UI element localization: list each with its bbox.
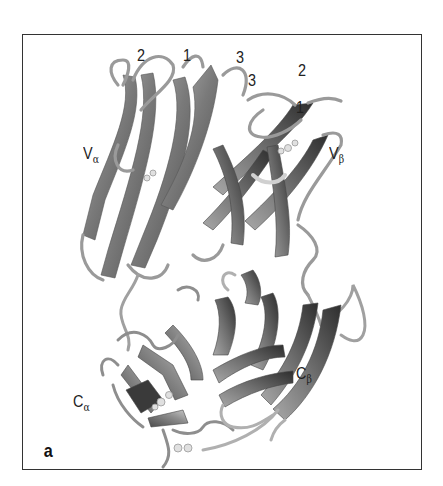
figure-panel: 2 1 3 3 2 1 Vα Vβ Cα Cβ a (22, 34, 422, 470)
domain-main: C (296, 364, 306, 383)
v-beta-coil (193, 94, 341, 295)
cdr-alpha-2-label: 2 (137, 47, 145, 64)
c-beta-domain-ribbon (213, 270, 341, 420)
c-alpha-domain-ribbon (121, 325, 203, 427)
cdr-alpha-3-label: 3 (236, 49, 244, 66)
cdr-beta-3-label: 3 (248, 72, 256, 89)
domain-main: V (329, 144, 339, 163)
domain-label-v-beta: Vβ (329, 145, 344, 165)
domain-sub: α (83, 401, 89, 414)
panel-label: a (44, 440, 53, 462)
domain-main: V (83, 144, 93, 163)
domain-sub: α (93, 153, 99, 166)
domain-label-c-beta: Cβ (296, 365, 312, 385)
domain-label-v-alpha: Vα (83, 145, 99, 165)
domain-sub: β (306, 373, 311, 386)
cdr-beta-2-label: 2 (298, 62, 306, 79)
cdr-beta-1-label: 1 (296, 99, 304, 116)
domain-label-c-alpha: Cα (73, 393, 90, 413)
domain-main: C (73, 392, 83, 411)
cdr-alpha-1-label: 1 (183, 47, 191, 64)
domain-sub: β (339, 153, 344, 166)
